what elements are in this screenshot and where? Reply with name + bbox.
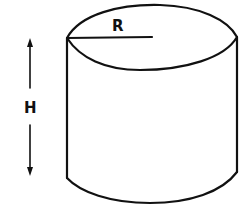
cylinder-diagram: R H (0, 0, 252, 216)
bottom-curve (67, 172, 237, 203)
arrow-up-icon (27, 38, 33, 47)
arrow-down-icon (27, 167, 33, 176)
radius-line (67, 37, 152, 38)
height-label: H (24, 99, 37, 117)
radius-label: R (112, 17, 124, 35)
